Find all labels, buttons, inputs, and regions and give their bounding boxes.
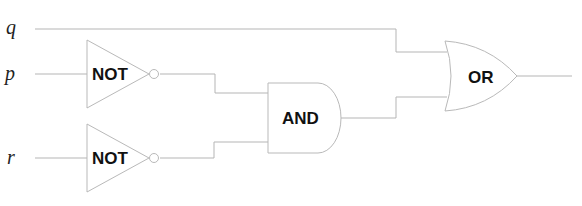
not-gate-1: NOT xyxy=(87,40,159,108)
wire-and-to-or xyxy=(341,97,447,118)
logic-circuit-diagram: q p r NOT NOT AND OR xyxy=(0,0,582,206)
not-gate-1-label: NOT xyxy=(92,65,129,84)
input-label-r: r xyxy=(7,146,15,168)
or-gate-label: OR xyxy=(468,68,494,87)
and-gate: AND xyxy=(268,83,341,153)
wire-not1-to-and xyxy=(160,74,268,93)
inversion-bubble-icon xyxy=(150,70,159,79)
inversion-bubble-icon xyxy=(150,154,159,163)
input-label-q: q xyxy=(6,16,16,39)
not-gate-2: NOT xyxy=(87,124,159,192)
wire-not2-to-and xyxy=(160,142,268,158)
and-gate-label: AND xyxy=(282,109,319,128)
input-label-p: p xyxy=(3,62,15,85)
or-gate: OR xyxy=(445,41,517,111)
not-gate-2-label: NOT xyxy=(92,149,129,168)
